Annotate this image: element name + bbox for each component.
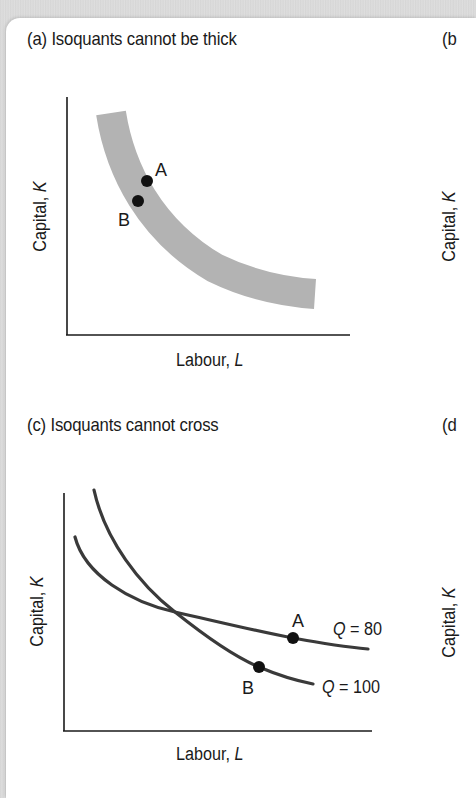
panel-c-x-axis-label: Labour, L bbox=[176, 744, 244, 765]
panel-c-isoquant-q80 bbox=[75, 537, 368, 649]
panel-c-isoquant-q100 bbox=[94, 490, 313, 684]
panel-d-y-axis-label: Capital, K bbox=[439, 580, 460, 665]
panel-c-point-a-label: A bbox=[292, 611, 304, 632]
panel-c-q80-label: Q = 80 bbox=[333, 619, 382, 640]
panel-d-title: (d bbox=[442, 414, 457, 436]
panel-c-y-axis-label: Capital, K bbox=[27, 569, 48, 654]
panel-c-point-b bbox=[253, 661, 265, 673]
panel-c-q100-label: Q = 100 bbox=[322, 677, 380, 698]
panel-c-point-b-label: B bbox=[242, 678, 254, 699]
panel-c-point-a bbox=[287, 632, 299, 644]
